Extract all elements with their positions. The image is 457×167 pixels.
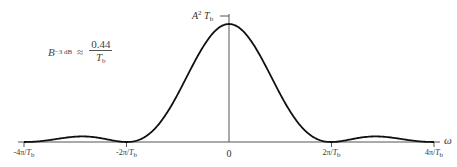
bw-lhs: B [48,46,55,58]
bw-lhs-sub: −3 dB [55,48,72,56]
tick-sub: b [440,151,444,159]
tick-text: 2π/ [322,148,332,157]
x-tick-label: 0 [227,148,232,161]
x-tick-label: -2π/Tb [116,148,137,159]
tick-sub: b [337,151,341,159]
tick-text: -2π/ [116,148,129,157]
x-axis-label: ω [444,134,452,146]
tick-text: -4π/ [14,148,27,157]
bw-numerator: 0.44 [89,38,112,51]
peak-label-sup: 2 [198,9,202,17]
bandwidth-annotation: B−3 dB ≈ 0.44 Tb [48,38,112,65]
bw-den-sub: b [102,57,106,65]
tick-text: 4π/ [425,148,435,157]
x-tick-label: 2π/Tb [322,148,340,159]
peak-label: A2 Tb [192,9,213,23]
tick-sub: b [133,151,137,159]
x-tick-label: 4π/Tb [425,148,443,159]
bw-fraction: 0.44 Tb [89,38,112,65]
bw-relation: ≈ [77,46,83,58]
peak-label-sub: b [210,15,214,23]
tick-sub: b [31,151,35,159]
tick-text: 0 [227,148,232,159]
diagram-canvas [0,0,457,167]
bw-denominator: Tb [96,51,106,65]
x-tick-label: -4π/Tb [14,148,35,159]
